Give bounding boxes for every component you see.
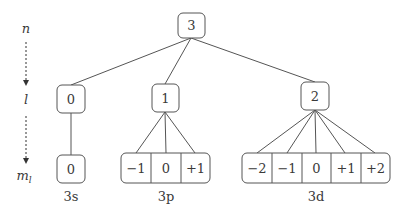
- ml-value: +2: [366, 161, 385, 176]
- node-l-value: 0: [67, 92, 75, 107]
- subshell-label-3s: 3s: [64, 189, 79, 204]
- ml-value: 0: [162, 161, 170, 176]
- ml-group-3p: −1 0 +1 3p: [121, 153, 210, 204]
- ml-value: 0: [67, 162, 75, 177]
- subshell-label-3d: 3d: [308, 189, 325, 204]
- ml-value: +1: [336, 161, 355, 176]
- edges-l-to-ml: [71, 110, 375, 155]
- node-l-value: 1: [161, 91, 169, 106]
- edge-l2-to-ml: [315, 110, 345, 153]
- axis-label-ml: ml: [16, 168, 31, 185]
- node-l-1: 1: [152, 84, 179, 112]
- arrowhead-icon: [23, 80, 29, 86]
- edge-l1-to-ml: [165, 112, 166, 153]
- ml-value: −1: [277, 161, 296, 176]
- ml-value: −2: [247, 161, 266, 176]
- edge-l1-to-ml: [165, 112, 195, 153]
- subshell-label-3p: 3p: [158, 189, 175, 204]
- edge-l1-to-ml: [136, 112, 165, 153]
- axis-label-n: n: [22, 21, 30, 36]
- ml-group-3s: 0 3s: [57, 155, 85, 204]
- node-l-value: 2: [311, 89, 319, 104]
- node-l-0: 0: [57, 85, 85, 113]
- edge-root-to-l1: [165, 38, 191, 84]
- edges-n-to-l: [71, 38, 315, 85]
- edge-root-to-l2: [191, 38, 315, 82]
- node-n: 3: [178, 13, 205, 38]
- edge-l2-to-ml: [315, 110, 316, 153]
- ml-value: −1: [126, 161, 145, 176]
- edge-root-to-l0: [71, 38, 191, 85]
- edge-l2-to-ml: [287, 110, 315, 153]
- arrowhead-icon: [23, 158, 29, 164]
- ml-group-3d: −2 −1 0 +1 +2 3d: [242, 153, 390, 204]
- level-axis: n l ml: [16, 21, 31, 185]
- node-l-2: 2: [301, 82, 329, 110]
- ml-value: +1: [186, 161, 205, 176]
- edge-l2-to-ml: [315, 110, 375, 153]
- ml-value: 0: [312, 161, 320, 176]
- axis-label-l: l: [24, 92, 28, 107]
- quantum-number-tree: n l ml 3 0 1 2: [0, 0, 406, 214]
- edge-l2-to-ml: [257, 110, 315, 153]
- node-n-value: 3: [187, 18, 195, 33]
